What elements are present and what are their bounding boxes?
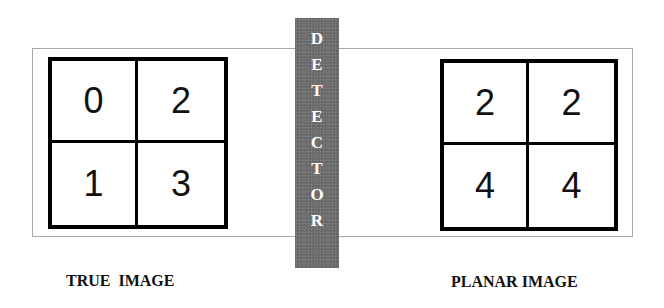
true-image-cell: 3 — [138, 143, 224, 225]
detector-letter: R — [311, 208, 323, 234]
true-image-cell: 2 — [138, 61, 224, 143]
detector-letter: O — [310, 182, 323, 208]
true-image-grid: 0 2 1 3 — [48, 57, 228, 229]
detector-letter: E — [311, 104, 322, 130]
detector-letter: T — [311, 78, 322, 104]
detector-letter: C — [311, 130, 323, 156]
detector-letter: T — [311, 156, 322, 182]
planar-image-cell: 2 — [529, 63, 614, 145]
planar-image-cell: 4 — [529, 145, 614, 227]
true-image-caption: TRUE IMAGE — [66, 272, 174, 290]
true-image-cell: 0 — [52, 61, 138, 143]
detector-bar: D E T E C T O R — [295, 18, 339, 268]
true-image-cell: 1 — [52, 143, 138, 225]
planar-image-cell: 4 — [444, 145, 529, 227]
detector-letter: E — [311, 52, 322, 78]
planar-image-caption: PLANAR IMAGE — [451, 273, 578, 291]
planar-image-cell: 2 — [444, 63, 529, 145]
planar-image-grid: 2 2 4 4 — [440, 59, 618, 231]
detector-letter: D — [311, 26, 323, 52]
